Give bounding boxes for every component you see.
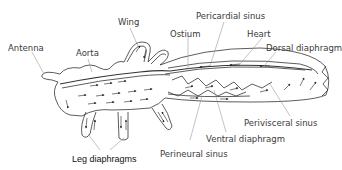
label-perineural-sinus: Perineural sinus <box>160 150 228 159</box>
label-pericardial-sinus: Pericardial sinus <box>196 12 265 21</box>
label-aorta: Aorta <box>76 49 99 58</box>
label-leg-diaphragms: Leg diaphragms <box>72 155 137 164</box>
insect-circulation-diagram <box>0 0 342 170</box>
label-ventral-diaphragm: Ventral diaphragm <box>206 135 285 144</box>
label-wing: Wing <box>118 18 139 27</box>
label-perivisceral-sinus: Perivisceral sinus <box>244 119 317 128</box>
label-heart: Heart <box>247 30 271 39</box>
label-dorsal-diaphragm: Dorsal diaphragm <box>266 44 342 53</box>
label-antenna: Antenna <box>8 44 44 53</box>
label-ostium: Ostium <box>170 30 200 39</box>
